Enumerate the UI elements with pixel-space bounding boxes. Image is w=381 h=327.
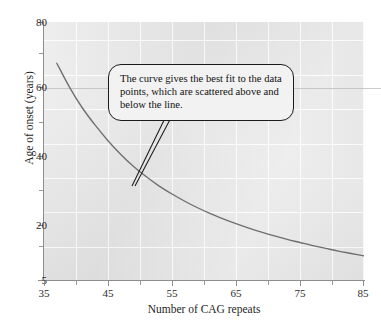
x-axis-label: 75 <box>285 288 315 299</box>
x-axis-title: Number of CAG repeats <box>44 303 364 315</box>
x-axis-label: 45 <box>93 288 123 299</box>
callout-pointer-tail <box>120 110 190 188</box>
annotation-callout: The curve gives the best fit to the data… <box>108 64 294 121</box>
x-axis-tick <box>44 281 45 286</box>
best-fit-curve <box>44 22 364 280</box>
x-axis-tick-minor <box>332 281 333 285</box>
x-axis-tick-minor <box>204 281 205 285</box>
x-axis-tick <box>108 281 109 286</box>
x-axis-label: 85 <box>348 288 378 299</box>
y-axis-label: 20 <box>21 220 47 230</box>
x-axis-label: 35 <box>29 288 59 299</box>
x-axis-tick <box>172 281 173 286</box>
x-axis-tick-minor <box>76 281 77 285</box>
y-axis-tick-minor <box>39 122 43 123</box>
x-axis-tick-minor <box>140 281 141 285</box>
x-axis-tick-minor <box>268 281 269 285</box>
y-axis-label: 80 <box>21 17 47 27</box>
x-axis-label: 55 <box>157 288 187 299</box>
figure-chart-age-of-onset-vs-cag-repeats: 80 60 40 20 5 35 45 55 65 75 85 Age of o… <box>0 0 381 327</box>
x-axis-tick <box>300 281 301 286</box>
x-axis-label: 65 <box>221 288 251 299</box>
x-axis-tick <box>363 281 364 286</box>
y-axis-tick-minor <box>39 53 43 54</box>
y-axis-tick-minor <box>39 190 43 191</box>
y-axis-tick-minor <box>39 246 43 247</box>
x-axis-tick <box>236 281 237 286</box>
y-axis-title: Age of onset (years) <box>23 33 35 203</box>
annotation-text: The curve gives the best fit to the data… <box>120 73 282 110</box>
